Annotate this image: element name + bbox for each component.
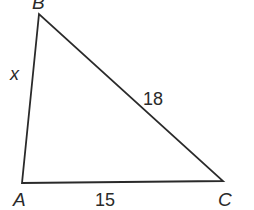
triangle-abc xyxy=(22,14,223,183)
side-label-ac: 15 xyxy=(95,190,115,210)
vertex-label-b: B xyxy=(32,0,45,13)
triangle-diagram: B A C x 18 15 xyxy=(0,0,254,210)
side-label-ab: x xyxy=(9,64,20,84)
triangle-figure: B A C x 18 15 xyxy=(0,0,254,210)
vertex-label-c: C xyxy=(218,189,232,210)
side-label-bc: 18 xyxy=(143,89,163,109)
vertex-label-a: A xyxy=(12,189,26,210)
